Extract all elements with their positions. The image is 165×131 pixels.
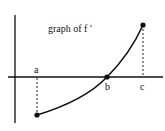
curve-f-prime xyxy=(37,25,143,115)
point-c xyxy=(140,22,145,27)
point-b xyxy=(104,74,109,79)
graph-title: graph of f ' xyxy=(48,23,92,34)
chart: graph of f ' a b c xyxy=(0,0,165,131)
label-a: a xyxy=(34,64,39,75)
point-a xyxy=(34,112,39,117)
label-b: b xyxy=(105,81,110,92)
label-c: c xyxy=(140,81,145,92)
